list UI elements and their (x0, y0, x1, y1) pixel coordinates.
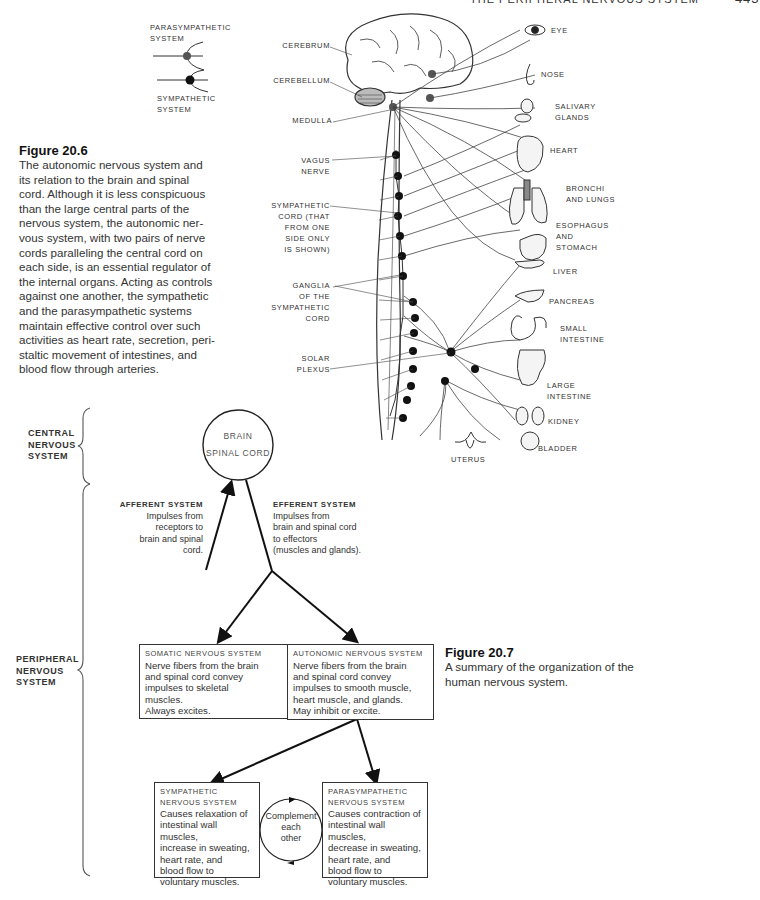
box-line: impulses to smooth muscle, (293, 682, 428, 693)
box-title: AUTONOMIC NERVOUS SYSTEM (293, 649, 428, 660)
caption-line: staltic movement of intestines, and (19, 348, 244, 363)
parasympathetic-nervous-system-box: PARASYMPATHETIC NERVOUS SYSTEM Causes co… (322, 782, 428, 878)
label-nose: NOSE (541, 69, 565, 80)
label-line: ESOPHAGUS (556, 220, 609, 231)
label-medulla: MEDULLA (270, 115, 332, 126)
text-line: Impulses from (110, 511, 203, 523)
box-line: May inhibit or excite. (293, 705, 428, 716)
box-line: decrease in sweating, (328, 842, 422, 853)
caption-line: cord. Although it is less conspicuous (19, 187, 244, 202)
label-solar-plexus: SOLAR PLEXUS (270, 353, 330, 375)
caption-line: human nervous system. (445, 675, 670, 690)
efferent-title: EFFERENT SYSTEM (273, 500, 356, 509)
label-line: NERVOUS (16, 666, 79, 678)
label-line: other (261, 833, 321, 844)
box-title: NERVOUS SYSTEM (160, 798, 254, 809)
label-eye: EYE (551, 25, 568, 36)
caption-line: than the large central parts of the (19, 202, 244, 217)
label-uterus: UTERUS (451, 454, 485, 465)
legend-line: SYSTEM (157, 104, 216, 115)
box-line: and spinal cord convey (145, 671, 293, 682)
caption-line: nervous system, the autonomic ner- (19, 216, 244, 231)
label-line: IS SHOWN) (250, 244, 330, 255)
legend-parasympathetic-symbol (153, 42, 204, 70)
label-line: STOMACH (556, 242, 609, 253)
brace-cns (78, 408, 90, 484)
label-line: SMALL (560, 323, 605, 334)
legend-sympathetic-symbol (157, 70, 208, 92)
label-line: BRAIN (203, 428, 273, 445)
label-line: INTESTINE (560, 334, 605, 345)
label-line: CORD (THAT (250, 211, 330, 222)
box-line: Always excites. (145, 705, 293, 716)
cns-label: CENTRAL NERVOUS SYSTEM (28, 428, 76, 463)
label-vagus-nerve: VAGUS NERVE (270, 155, 330, 177)
label-kidney: KIDNEY (548, 416, 580, 427)
label-line: SPINAL CORD (203, 445, 273, 462)
box-line: voluntary muscles. (160, 876, 254, 887)
label-pancreas: PANCREAS (549, 296, 595, 307)
label-line: SYSTEM (28, 451, 76, 463)
box-line: heart muscle, and glands. (293, 694, 428, 705)
label-line: SOLAR (270, 353, 330, 364)
text-line: brain and spinal (110, 534, 203, 546)
label-cerebrum: CEREBRUM (270, 40, 330, 51)
caption-line: vous system, with two pairs of nerve (19, 231, 244, 246)
label-line: OF THE (250, 291, 330, 302)
label-liver: LIVER (553, 266, 578, 277)
box-line: heart rate, and (160, 854, 254, 865)
label-salivary-glands: SALIVARY GLANDS (555, 101, 596, 123)
brain-spinal-cord-label: BRAIN SPINAL CORD (203, 428, 273, 462)
caption-line: blood flow through arteries. (19, 362, 244, 377)
caption-line: and the parasympathetic systems (19, 304, 244, 319)
nerve-fibers (393, 30, 535, 440)
legend-parasympathetic-label: PARASYMPATHETIC SYSTEM (150, 22, 231, 44)
text-line: Impulses from (273, 511, 383, 523)
caption-line: each side, is an essential regulator of (19, 260, 244, 275)
box-title: SYMPATHETIC (160, 787, 254, 798)
label-large-intestine: LARGE INTESTINE (547, 380, 592, 402)
label-line: VAGUS (270, 155, 330, 166)
label-line: SYSTEM (16, 677, 79, 689)
label-line: SYMPATHETIC (250, 200, 330, 211)
somatic-nervous-system-box: SOMATIC NERVOUS SYSTEM Nerve fibers from… (139, 644, 299, 719)
efferent-system-text: EFFERENT SYSTEM Impulses from brain and … (273, 499, 383, 557)
caption-line: cords paralleling the central cord on (19, 246, 244, 261)
page-number: 443 (735, 0, 760, 6)
label-line: SALIVARY (555, 101, 596, 112)
caption-line: The autonomic nervous system and (19, 158, 244, 173)
text-line: receptors to (110, 522, 203, 534)
text-line: to effectors (273, 534, 383, 546)
brain-drawing (346, 14, 473, 106)
organ-drawings (455, 25, 547, 450)
box-line: blood flow to (328, 865, 422, 876)
caption-line: its relation to the brain and spinal (19, 173, 244, 188)
brace-pns (78, 484, 90, 876)
legend-sympathetic-label: SYMPATHETIC SYSTEM (157, 93, 216, 115)
box-line: Nerve fibers from the brain (145, 660, 293, 671)
label-line: FROM ONE (250, 222, 330, 233)
label-line: CORD (250, 313, 330, 324)
box-line: intestinal wall muscles, (160, 819, 254, 842)
label-line: GANGLIA (250, 280, 330, 291)
label-sympathetic-cord: SYMPATHETIC CORD (THAT FROM ONE SIDE ONL… (250, 200, 330, 255)
box-line: Nerve fibers from the brain (293, 660, 428, 671)
label-line: BRONCHI (566, 183, 615, 194)
label-line: NERVOUS (28, 440, 76, 452)
box-line: Causes relaxation of (160, 808, 254, 819)
label-esophagus-stomach: ESOPHAGUS AND STOMACH (556, 220, 609, 253)
label-line: Complement (261, 811, 321, 822)
label-line: PERIPHERAL (16, 654, 79, 666)
box-line: Causes contraction of (328, 808, 422, 819)
figure-20-6-caption: Figure 20.6 The autonomic nervous system… (19, 143, 244, 377)
figure-20-6-title: Figure 20.6 (19, 143, 244, 158)
box-line: impulses to skeletal (145, 682, 293, 693)
label-line: each (261, 822, 321, 833)
complement-label: Complement each other (261, 811, 321, 844)
legend-line: PARASYMPATHETIC (150, 22, 231, 33)
label-small-intestine: SMALL INTESTINE (560, 323, 605, 345)
figure-20-7-caption: Figure 20.7 A summary of the organizatio… (445, 645, 670, 689)
label-heart: HEART (550, 145, 578, 156)
caption-line: the internal organs. Acting as controls (19, 275, 244, 290)
label-line: SIDE ONLY (250, 233, 330, 244)
